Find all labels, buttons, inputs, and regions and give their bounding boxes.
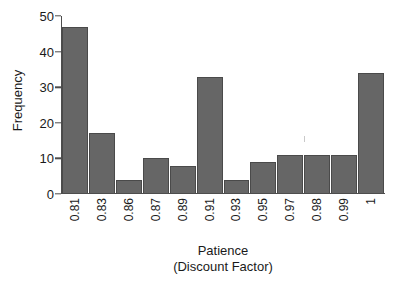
histogram-chart: Frequency 01020304050 0.810.830.860.870.… [0, 0, 405, 286]
x-axis-tick-label: 0.97 [284, 198, 296, 221]
x-axis-tick-label: 0.87 [150, 198, 162, 221]
plot-area [62, 16, 384, 194]
x-axis-tick-label-cell: 0.86 [116, 196, 143, 242]
x-axis-tick-label: 0.99 [338, 198, 350, 221]
y-axis-tick-mark [55, 86, 61, 87]
histogram-bar [250, 162, 276, 194]
x-axis-tick-label-cell: 0.89 [169, 196, 196, 242]
scan-artifact-mark [304, 136, 305, 142]
x-axis-tick-label: 0.86 [123, 198, 135, 221]
x-axis-tick-label: 0.89 [177, 198, 189, 221]
x-axis-line [61, 193, 385, 194]
histogram-bar [170, 166, 196, 194]
x-axis-tick-label-cell: 0.95 [250, 196, 277, 242]
x-axis-tick-label-cell: 0.81 [62, 196, 89, 242]
y-axis-tick-labels: 01020304050 [30, 10, 54, 198]
y-axis-tick-mark [55, 15, 61, 16]
x-axis-tick-label-cell: 0.99 [330, 196, 357, 242]
x-axis-tick-label-cell: 0.83 [89, 196, 116, 242]
x-axis-tick-label: 0.91 [204, 198, 216, 221]
x-axis-tick-label: 0.98 [311, 198, 323, 221]
y-axis-tick-mark [55, 122, 61, 123]
y-axis-tick-label: 40 [40, 45, 54, 58]
histogram-bar [224, 180, 250, 194]
x-axis-title: Patience (Discount Factor) [62, 243, 384, 275]
y-axis-title-text: Frequency [11, 69, 26, 130]
y-axis-tick-label: 30 [40, 81, 54, 94]
histogram-bar [62, 27, 88, 194]
y-axis-tick-label: 10 [40, 152, 54, 165]
y-axis-title: Frequency [6, 0, 30, 200]
y-axis-tick-label: 50 [40, 10, 54, 23]
histogram-bar [143, 158, 169, 194]
x-axis-tick-label-cell: 0.97 [277, 196, 304, 242]
histogram-bar [304, 155, 330, 194]
x-axis-tick-label-cell: 0.98 [303, 196, 330, 242]
histogram-bar [331, 155, 357, 194]
x-axis-tick-label: 0.83 [96, 198, 108, 221]
x-axis-tick-label: 0.95 [257, 198, 269, 221]
x-axis-tick-label-cell: 0.93 [223, 196, 250, 242]
histogram-bar [277, 155, 303, 194]
y-axis-tick-mark [55, 158, 61, 159]
histogram-bar [358, 73, 384, 194]
x-axis-title-line2: (Discount Factor) [62, 259, 384, 275]
y-axis-tick-label: 0 [47, 188, 54, 201]
histogram-bar [116, 180, 142, 194]
histogram-bar [89, 133, 115, 194]
x-axis-tick-labels: 0.810.830.860.870.890.910.930.950.970.98… [62, 196, 384, 242]
y-axis-tick-mark [55, 51, 61, 52]
x-axis-tick-label-cell: 0.91 [196, 196, 223, 242]
x-axis-tick-label: 1 [365, 198, 377, 205]
x-axis-tick-label-cell: 1 [357, 196, 384, 242]
x-axis-tick-label: 0.81 [69, 198, 81, 221]
y-axis-tick-label: 20 [40, 116, 54, 129]
x-axis-title-line1: Patience [62, 243, 384, 259]
x-axis-tick-label-cell: 0.87 [142, 196, 169, 242]
x-axis-tick-label: 0.93 [230, 198, 242, 221]
bar-series [62, 16, 384, 194]
histogram-bar [197, 77, 223, 194]
